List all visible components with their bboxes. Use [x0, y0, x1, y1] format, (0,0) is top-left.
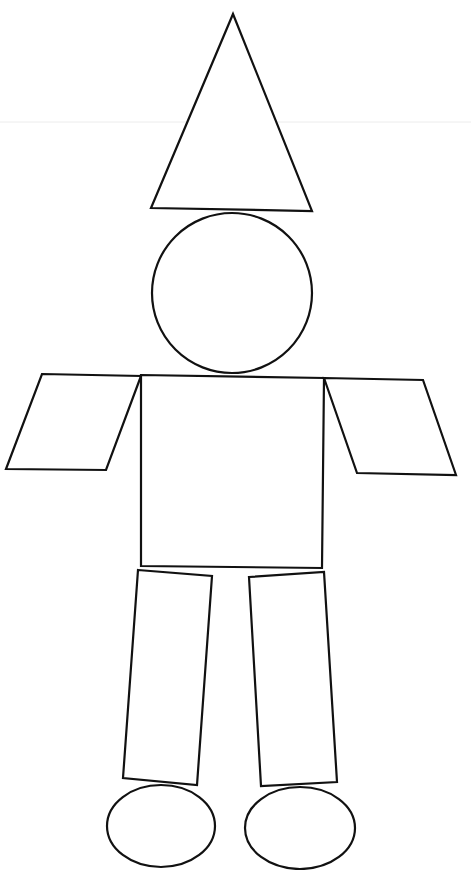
right-arm-parallelogram [324, 378, 456, 475]
left-leg-quadrilateral [123, 570, 212, 785]
shape-figure-canvas [0, 0, 471, 870]
hat-triangle [151, 14, 312, 211]
right-foot-ellipse [245, 787, 355, 869]
left-foot-ellipse [107, 785, 215, 867]
right-leg-quadrilateral [249, 572, 337, 786]
head-circle [152, 213, 312, 373]
left-arm-parallelogram [6, 374, 141, 470]
body-rectangle [141, 375, 324, 568]
